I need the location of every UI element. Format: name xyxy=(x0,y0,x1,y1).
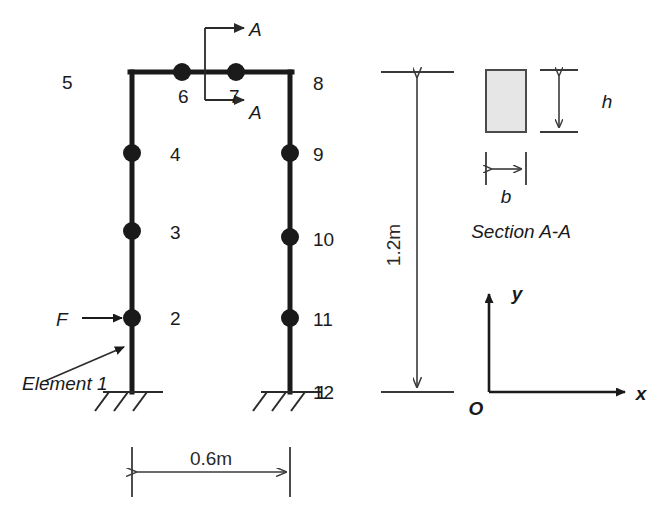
axis-origin-label: O xyxy=(469,398,484,419)
section-width-label-b: b xyxy=(501,186,512,207)
support-left-hatch-3 xyxy=(133,392,147,411)
support-right-hatch-1 xyxy=(253,392,267,411)
dimension-height-label: 1.2m xyxy=(383,224,404,266)
node-label-4: 4 xyxy=(170,144,181,165)
dimension-width-label: 0.6m xyxy=(190,448,232,469)
y-axis-label: y xyxy=(511,283,524,304)
support-left-hatch-1 xyxy=(95,392,109,411)
node-label-12: 12 xyxy=(313,382,334,403)
node-dot-9 xyxy=(281,144,299,162)
section-marker-label-top: A xyxy=(248,19,262,40)
node-dot-6 xyxy=(173,63,191,81)
node-label-5: 5 xyxy=(62,72,73,93)
node-label-10: 10 xyxy=(313,229,334,250)
figure-canvas: 1 2 3 4 5 6 7 8 9 10 11 12 A A F Element… xyxy=(0,0,662,531)
node-label-3: 3 xyxy=(170,222,181,243)
node-label-9: 9 xyxy=(313,144,324,165)
section-b-dimension xyxy=(486,152,526,185)
section-rectangle xyxy=(486,70,526,132)
node-dot-3 xyxy=(123,222,141,240)
frame-diagram-svg: 1 2 3 4 5 6 7 8 9 10 11 12 A A F Element… xyxy=(0,0,662,531)
x-axis-label: x xyxy=(635,383,648,404)
coordinate-axes xyxy=(489,294,625,392)
node-dot-10 xyxy=(281,228,299,246)
support-right-hatch-3 xyxy=(291,392,305,411)
support-right xyxy=(253,392,321,411)
node-label-2: 2 xyxy=(170,308,181,329)
node-label-8: 8 xyxy=(313,73,324,94)
support-left xyxy=(95,392,163,411)
force-label-F: F xyxy=(56,309,69,330)
section-h-dimension xyxy=(540,70,578,132)
cross-section-shape xyxy=(486,70,526,132)
support-right-hatch-2 xyxy=(272,392,286,411)
node-label-7: 7 xyxy=(229,86,240,107)
node-label-6: 6 xyxy=(178,86,189,107)
element-label: Element 1 xyxy=(22,373,108,394)
section-caption: Section A-A xyxy=(471,221,571,242)
node-dot-11 xyxy=(281,309,299,327)
frame-members xyxy=(130,72,292,392)
node-dots-group xyxy=(123,63,299,327)
node-dot-7 xyxy=(227,63,245,81)
node-dot-2 xyxy=(123,309,141,327)
section-marker-label-bottom: A xyxy=(248,102,262,123)
node-label-11: 11 xyxy=(313,309,333,330)
node-dot-4 xyxy=(123,144,141,162)
support-left-hatch-2 xyxy=(114,392,128,411)
section-height-label-h: h xyxy=(602,91,613,112)
